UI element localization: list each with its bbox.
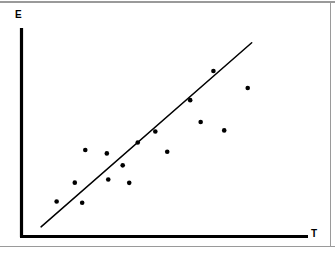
data-point [153, 129, 158, 134]
data-point [80, 200, 85, 205]
data-point [105, 151, 110, 156]
y-axis-label: E [15, 10, 22, 20]
data-point [135, 140, 140, 145]
data-point [83, 148, 88, 153]
data-point [73, 180, 78, 185]
data-point [165, 150, 170, 155]
data-point [211, 69, 216, 74]
scatter-plot: E T [0, 0, 335, 255]
data-point [127, 181, 132, 186]
figure-frame: E T [0, 0, 335, 255]
data-point [245, 86, 250, 91]
data-point [188, 98, 193, 103]
data-point [54, 199, 59, 204]
data-point [120, 163, 125, 168]
trend-line [41, 43, 252, 227]
data-point [222, 128, 227, 133]
data-point [106, 177, 111, 182]
data-point [198, 120, 203, 125]
data-points-group [54, 69, 250, 205]
x-axis-label: T [311, 229, 317, 239]
plot-canvas [0, 0, 335, 255]
